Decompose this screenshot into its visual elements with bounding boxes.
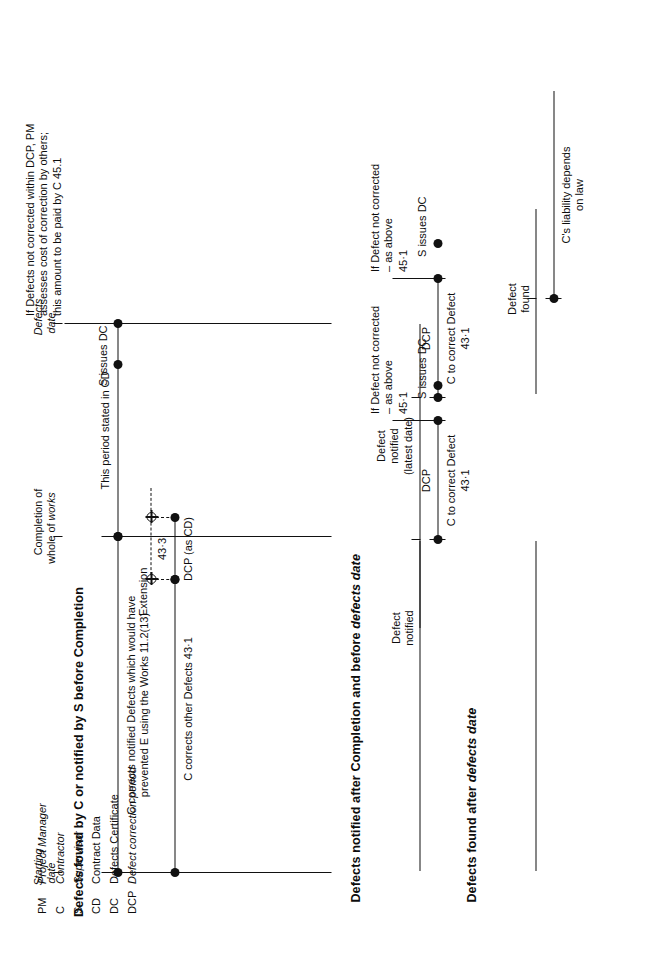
panel-3-title: Defects found after defects date xyxy=(449,708,495,917)
panel-1-label-extension: Extension xyxy=(136,568,149,616)
axis-tick-defects-date xyxy=(53,323,62,324)
panel-1-label-extension-clause: 43·3 xyxy=(155,518,168,580)
axis-caption-starting-date: Starting date xyxy=(18,830,71,916)
panel-1-bar-this-period xyxy=(117,324,118,537)
panel-2-label-c-correct-latest-clause: 43·1 xyxy=(458,279,471,398)
axis-tick-starting-date xyxy=(53,872,62,873)
panel-1-leader-pm-assesses xyxy=(64,323,117,324)
panel-2-label-dcp-latest: DCP xyxy=(419,279,432,398)
panel-1-bar-extension xyxy=(150,488,151,580)
panel-1-rail-defects-date xyxy=(101,323,331,324)
panel-1-dot-this-period-end xyxy=(113,320,122,329)
panel-1-dot-dcp-start xyxy=(170,576,179,585)
legend-key-dc: DC xyxy=(107,898,119,914)
panel-1-dot-s-issues-dc xyxy=(113,361,122,370)
panel-2-label-c-correct-latest: C to correct Defect xyxy=(444,279,457,398)
panel-2-label-dcp-early: DCP xyxy=(419,421,432,540)
panel-2-title: Defects notified after Completion and be… xyxy=(333,554,379,917)
panel-2-dot-dcp-latest-start xyxy=(433,394,442,403)
panel-separator-2 xyxy=(535,541,536,871)
panel-2-label-not-corrected-latest: If Defect not corrected – as above xyxy=(368,164,395,272)
panel-1-bar-dcp-as-cd xyxy=(174,518,175,580)
panel-3-label-defect-found: Defect found xyxy=(505,264,532,334)
legend-key-dcp: DCP xyxy=(125,891,137,914)
panel-2-dot-dcp-latest-end xyxy=(433,275,442,284)
panel-3-label-liability: C's liability depends on law xyxy=(559,91,586,299)
panel-2-label-defect-notified-latest: Defect notified (latest date) xyxy=(374,397,414,495)
panel-1-dot-dcp-end xyxy=(170,514,179,523)
panel-1-label-dcp-as-cd: DCP (as CD) xyxy=(181,488,194,610)
diagram-canvas: PM Project Manager C Contractor S Superv… xyxy=(0,0,647,954)
panel-2-label-s-issues-dc-latest: S issues DC xyxy=(415,196,428,257)
panel-1-label-corrects-other: C corrects other Defects 43·1 xyxy=(181,584,194,834)
panel-3-title-text-italic-tail: defects date xyxy=(464,708,478,783)
panel-2-label-defect-notified-early: Defect notified xyxy=(389,585,416,671)
panel-1-label-s-issues-dc: S issues DC xyxy=(96,325,109,386)
axis-caption-completion-italic-works: works xyxy=(44,492,56,520)
panel-3-tick-defect-found xyxy=(527,298,536,299)
panel-1-dot-corrects-other-start xyxy=(170,869,179,878)
legend-key-cd: CD xyxy=(89,898,101,914)
axis-caption-completion: Completion of whole of works xyxy=(18,463,71,593)
panel-2-dot-dcp-early-end xyxy=(433,417,442,426)
panel-1-bar-corrects-notified xyxy=(117,537,118,873)
panel-1-bar-corrects-other xyxy=(174,580,175,873)
legend-label-cd: Contract Data xyxy=(89,816,101,884)
panel-2-dot-s-issues-dc-latest xyxy=(433,240,442,249)
panel-2-label-c-correct-early: C to correct Defect xyxy=(444,421,457,540)
panel-2-title-text: Defects notified after Completion and be… xyxy=(348,554,362,903)
panel-2-dot-dcp-early-start xyxy=(433,536,442,545)
axis-tick-completion xyxy=(53,536,62,537)
panel-2-group-b-bar xyxy=(437,279,438,398)
panel-2-label-c-correct-early-clause: 43·1 xyxy=(458,421,471,540)
panel-2-leader-not-corrected-latest xyxy=(392,278,437,279)
panel-2-title-text-italic-tail: defects date xyxy=(348,554,362,629)
panel-1-label-pm-assesses: If Defects not corrected within DCP, PM … xyxy=(23,124,63,316)
panel-1-extension-marker-right xyxy=(146,512,156,522)
panel-3-axis xyxy=(535,209,536,394)
panel-1-dot-this-period-start xyxy=(113,533,122,542)
panel-3-bar-liability xyxy=(553,91,554,299)
panel-1-title: Defects found by C or notified by S befo… xyxy=(71,587,86,917)
panel-3-dot-defect-found xyxy=(549,295,558,304)
panel-2-bar-dcp-early xyxy=(437,421,438,540)
panel-2-label-not-corrected-latest-clause: 45·1 xyxy=(396,250,409,272)
panel-3-title-text: Defects found after defects date xyxy=(464,708,478,903)
